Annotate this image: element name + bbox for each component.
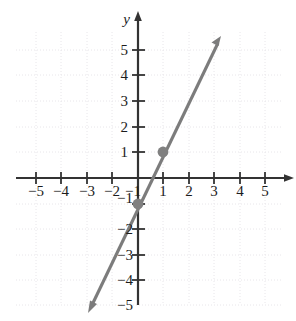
y-label-neg-1: −1 xyxy=(117,190,133,206)
coordinate-plane-figure: −5 −4 −3 −2 −1 1 2 3 4 5 1 2 3 4 5 −1 −2… xyxy=(0,0,296,321)
y-axis-negative-labels: −1 −2 −3 −4 −5 xyxy=(117,190,133,313)
line-arrow-up-icon xyxy=(212,36,222,46)
y-axis-positive-labels: 1 2 3 4 5 xyxy=(121,42,129,160)
y-axis xyxy=(134,11,142,305)
x-label-neg-3: −3 xyxy=(79,183,95,199)
x-axis-positive-labels: 1 2 3 4 5 xyxy=(159,183,269,199)
point-y-intercept xyxy=(133,199,144,210)
y-axis-arrow-icon xyxy=(134,11,142,21)
x-axis-arrow-icon xyxy=(284,174,294,182)
x-label-2: 2 xyxy=(185,183,193,199)
x-label-neg-4: −4 xyxy=(53,183,69,199)
y-label-2: 2 xyxy=(121,119,129,135)
y-label-3: 3 xyxy=(121,93,129,109)
y-label-neg-5: −5 xyxy=(117,297,133,313)
graph-canvas: −5 −4 −3 −2 −1 1 2 3 4 5 1 2 3 4 5 −1 −2… xyxy=(0,0,296,321)
y-label-4: 4 xyxy=(121,67,129,83)
x-label-neg-5: −5 xyxy=(28,183,44,199)
x-label-1: 1 xyxy=(159,183,167,199)
plotted-line xyxy=(88,36,221,313)
x-label-3: 3 xyxy=(210,183,218,199)
y-axis-name-label: y xyxy=(121,11,130,27)
x-label-4: 4 xyxy=(236,183,244,199)
y-label-5: 5 xyxy=(121,42,129,58)
grid-lines xyxy=(16,32,282,305)
y-label-1: 1 xyxy=(121,144,129,160)
line-arrow-down-icon xyxy=(88,301,97,314)
y-label-neg-3: −3 xyxy=(117,247,133,263)
y-label-neg-2: −2 xyxy=(117,221,133,237)
point-second xyxy=(158,147,169,158)
x-label-5: 5 xyxy=(261,183,269,199)
y-label-neg-4: −4 xyxy=(117,272,133,288)
